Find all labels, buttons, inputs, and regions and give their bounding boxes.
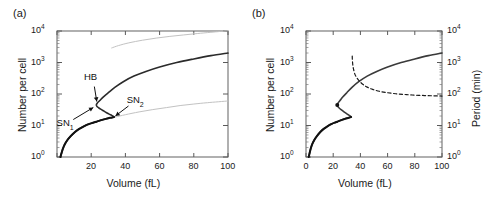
panel-a-x-tick-label: 40 — [120, 161, 130, 171]
series-path — [309, 53, 442, 157]
panel-a-x-tick-label: 60 — [154, 161, 164, 171]
panel-b-x-tick-label: 100 — [434, 161, 449, 171]
panel-b-right-tick-label: 100 — [447, 151, 461, 161]
panel-b-y-axis-title: Number per cell — [264, 58, 276, 132]
panel-b: (b) Number per cell Period (min) Volume … — [250, 0, 499, 199]
panel-a-y-tick-label: 104 — [31, 25, 45, 35]
panel-a-y-tick-label: 103 — [31, 57, 45, 67]
panel-b-right-tick-label: 104 — [447, 25, 461, 35]
hopf-bifurcation-point — [335, 103, 339, 107]
panel-b-x-tick-label: 20 — [328, 161, 338, 171]
stable-branch-emphasis — [309, 117, 351, 157]
panel-a-x-tick-label: 20 — [86, 161, 96, 171]
panel-a: (a) Number per cell Volume (fL) 20406080… — [0, 0, 250, 199]
panel-b-right-tick-label: 101 — [447, 120, 461, 130]
panel-b-x-tick-label: 80 — [410, 161, 420, 171]
annotation-label: SN1 — [57, 117, 74, 128]
figure-container: (a) Number per cell Volume (fL) 20406080… — [0, 0, 499, 199]
annotation-label: SN2 — [127, 94, 144, 105]
annotation-arrowhead — [94, 97, 99, 102]
panel-a-x-axis-title: Volume (fL) — [107, 177, 161, 189]
series-path — [112, 31, 228, 48]
annotation-label: HB — [84, 71, 97, 82]
panel-a-x-tick-label: 100 — [220, 161, 235, 171]
panel-b-right-tick-label: 103 — [447, 57, 461, 67]
panel-b-x-tick-label: 40 — [355, 161, 365, 171]
panel-b-y-tick-label: 104 — [280, 25, 294, 35]
panel-a-y-tick-label: 100 — [31, 151, 45, 161]
panel-b-y-tick-label: 101 — [280, 120, 294, 130]
panel-b-y-tick-label: 100 — [280, 151, 294, 161]
panel-b-x-axis-title: Volume (fL) — [338, 177, 392, 189]
panel-b-x-tick-label: 60 — [382, 161, 392, 171]
panel-b-right-axis-title: Period (min) — [470, 70, 482, 127]
panel-b-x-tick-label: 0 — [303, 161, 308, 171]
series-path — [60, 53, 228, 157]
panel-b-y-tick-label: 103 — [280, 57, 294, 67]
panel-a-y-tick-label: 101 — [31, 120, 45, 130]
panel-a-x-tick-label: 80 — [189, 161, 199, 171]
panel-b-y-tick-label: 102 — [280, 88, 294, 98]
panel-b-right-tick-label: 102 — [447, 88, 461, 98]
panel-a-y-tick-label: 102 — [31, 88, 45, 98]
panel-a-y-axis-title: Number per cell — [16, 58, 28, 132]
